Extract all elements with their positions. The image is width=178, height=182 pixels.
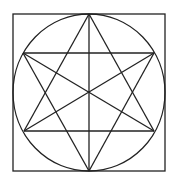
hexagram-lines: [23, 14, 154, 171]
down-triangle-left-line: [23, 53, 89, 171]
up-triangle-right-line: [89, 14, 154, 131]
hexagram-diagram: [0, 0, 178, 182]
down-triangle-right-line: [89, 53, 154, 171]
diagram-canvas: [0, 0, 178, 182]
